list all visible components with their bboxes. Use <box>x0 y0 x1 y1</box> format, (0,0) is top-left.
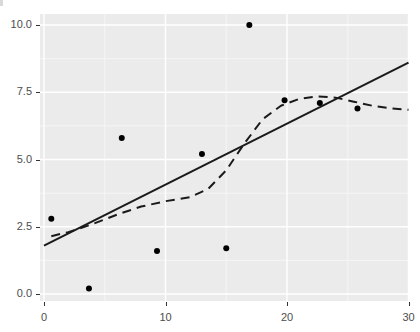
data-point <box>223 245 229 251</box>
y-tick-mark <box>36 227 40 228</box>
y-tick-label: 5.0 <box>17 154 32 165</box>
x-tick-mark <box>409 302 410 306</box>
y-tick-mark <box>36 160 40 161</box>
y-tick-mark <box>36 92 40 93</box>
x-tick-label: 0 <box>24 312 64 323</box>
data-points <box>48 22 360 292</box>
y-tick-mark <box>36 25 40 26</box>
y-tick-label: 2.5 <box>17 221 32 232</box>
major-gridlines <box>40 14 409 301</box>
data-point <box>317 100 323 106</box>
data-point <box>282 97 288 103</box>
x-tick-mark <box>287 302 288 306</box>
y-tick-label: 10.0 <box>11 19 32 30</box>
y-tick-label: 0.0 <box>17 288 32 299</box>
x-tick-label: 10 <box>146 312 186 323</box>
scatter-chart: 0.02.55.07.510.0 0102030 <box>0 0 420 332</box>
y-tick-label: 7.5 <box>17 86 32 97</box>
data-point <box>246 22 252 28</box>
data-point <box>119 135 125 141</box>
x-tick-mark <box>166 302 167 306</box>
minor-gridlines <box>40 14 409 301</box>
data-point <box>86 286 92 292</box>
data-point <box>48 216 54 222</box>
x-tick-label: 20 <box>267 312 307 323</box>
data-point <box>354 105 360 111</box>
y-tick-mark <box>36 294 40 295</box>
x-tick-mark <box>44 302 45 306</box>
x-tick-label: 30 <box>389 312 420 323</box>
plot-canvas <box>0 0 420 332</box>
data-point <box>154 248 160 254</box>
data-point <box>199 151 205 157</box>
